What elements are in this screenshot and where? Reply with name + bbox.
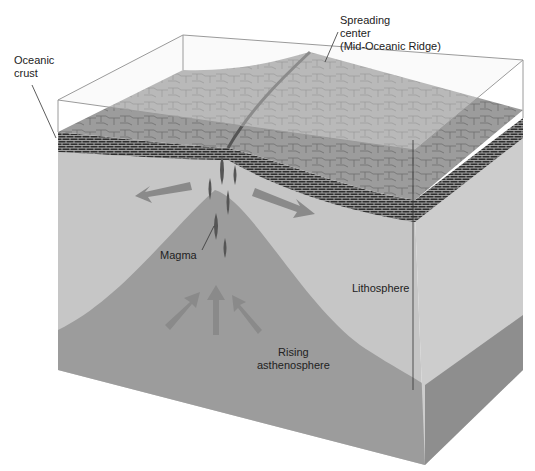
label-rising-asthenosphere: Rising asthenosphere	[257, 346, 330, 372]
oceanic-crust-leader	[32, 85, 56, 138]
label-lithosphere: Lithosphere	[352, 282, 410, 295]
label-oceanic-crust: Oceanic crust	[14, 54, 54, 80]
block-diagram	[0, 0, 535, 471]
label-magma: Magma	[160, 249, 197, 262]
label-spreading-center: Spreading center (Mid-Oceanic Ridge)	[340, 14, 441, 53]
